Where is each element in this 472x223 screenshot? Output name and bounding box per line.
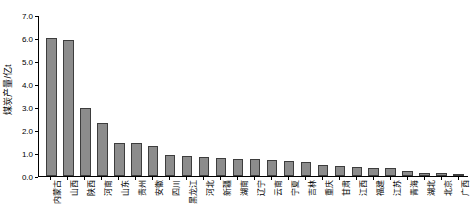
y-axis-tick-label: 0.0 bbox=[22, 173, 33, 182]
x-axis-category-label: 广西 bbox=[462, 180, 470, 196]
x-axis-category-label: 新疆 bbox=[224, 180, 232, 196]
x-axis-category-label: 北京 bbox=[445, 180, 453, 196]
bar bbox=[301, 162, 312, 176]
y-axis-tick-mark bbox=[35, 85, 38, 86]
bar bbox=[182, 156, 193, 176]
x-axis-category-label: 甘肃 bbox=[343, 180, 351, 196]
x-axis-category-label: 湖南 bbox=[241, 180, 249, 196]
x-axis-category-label: 山西 bbox=[71, 180, 79, 196]
x-axis-category-label: 重庆 bbox=[326, 180, 334, 196]
bar bbox=[368, 168, 379, 176]
bar bbox=[199, 157, 210, 176]
bar bbox=[80, 108, 91, 176]
x-axis-category-label: 青海 bbox=[411, 180, 419, 196]
y-axis-tick-label: 5.0 bbox=[22, 58, 33, 67]
bar bbox=[233, 159, 244, 176]
bar bbox=[114, 143, 125, 176]
y-axis-tick-label: 4.0 bbox=[22, 81, 33, 90]
y-axis-tick-mark bbox=[35, 16, 38, 17]
bar bbox=[385, 168, 396, 176]
x-axis-category-label: 福建 bbox=[377, 180, 385, 196]
x-axis-category-label: 云南 bbox=[275, 180, 283, 196]
y-axis-tick-mark bbox=[35, 62, 38, 63]
x-axis-category-label: 江苏 bbox=[394, 180, 402, 196]
bar bbox=[402, 171, 413, 176]
x-axis-category-labels: 内蒙古山西陕西河南山东贵州安徽四川黑龙江河北新疆湖南辽宁云南宁夏吉林重庆甘肃江西… bbox=[38, 180, 468, 223]
bar bbox=[335, 166, 346, 176]
y-axis-tick-mark bbox=[35, 39, 38, 40]
bar bbox=[436, 173, 447, 176]
bar bbox=[148, 146, 159, 176]
y-axis-tick-label: 1.0 bbox=[22, 150, 33, 159]
y-axis-tick-mark bbox=[35, 177, 38, 178]
y-axis-title-text: 煤炭产量/亿t bbox=[1, 64, 14, 114]
bar bbox=[131, 143, 142, 176]
x-axis-category-label: 黑龙江 bbox=[190, 180, 198, 204]
x-axis-category-label: 四川 bbox=[173, 180, 181, 196]
x-axis-line bbox=[38, 176, 468, 177]
x-axis-category-label: 河北 bbox=[207, 180, 215, 196]
bar bbox=[250, 159, 261, 176]
bar bbox=[318, 165, 329, 176]
bar bbox=[165, 155, 176, 176]
y-axis-tick-label: 2.0 bbox=[22, 127, 33, 136]
x-axis-category-label: 安徽 bbox=[156, 180, 164, 196]
bar bbox=[419, 173, 430, 176]
bar bbox=[63, 40, 74, 176]
x-axis-category-label: 辽宁 bbox=[258, 180, 266, 196]
bar-series bbox=[39, 16, 468, 176]
bar bbox=[216, 158, 227, 176]
x-axis-category-label: 河南 bbox=[105, 180, 113, 196]
bar-chart: 煤炭产量/亿t 0.01.02.03.04.05.06.07.0 内蒙古山西陕西… bbox=[0, 0, 472, 223]
y-axis-title: 煤炭产量/亿t bbox=[0, 0, 14, 178]
x-axis-category-label: 山东 bbox=[122, 180, 130, 196]
bar bbox=[46, 38, 57, 176]
bar bbox=[352, 167, 363, 176]
y-axis-tick-mark bbox=[35, 131, 38, 132]
bar bbox=[267, 160, 278, 176]
bar bbox=[453, 174, 464, 176]
bar bbox=[97, 123, 108, 176]
x-axis-category-label: 湖北 bbox=[428, 180, 436, 196]
y-axis-tick-mark bbox=[35, 108, 38, 109]
x-axis-category-label: 吉林 bbox=[309, 180, 317, 196]
x-axis-category-label: 贵州 bbox=[139, 180, 147, 196]
plot-area bbox=[38, 16, 468, 177]
bar bbox=[284, 161, 295, 176]
x-axis-category-label: 内蒙古 bbox=[54, 180, 62, 204]
y-axis-tick-label: 7.0 bbox=[22, 12, 33, 21]
x-axis-category-label: 陕西 bbox=[88, 180, 96, 196]
x-axis-category-label: 宁夏 bbox=[292, 180, 300, 196]
y-axis-tick-mark bbox=[35, 154, 38, 155]
x-axis-category-label: 江西 bbox=[360, 180, 368, 196]
y-axis-tick-label: 3.0 bbox=[22, 104, 33, 113]
y-axis-tick-labels: 0.01.02.03.04.05.06.07.0 bbox=[14, 0, 36, 200]
y-axis-tick-label: 6.0 bbox=[22, 35, 33, 44]
